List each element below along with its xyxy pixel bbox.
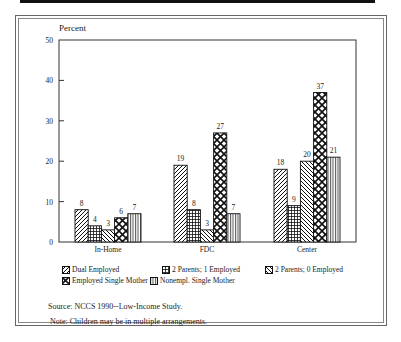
chart-bars: 843671983277189203721 <box>75 82 340 242</box>
bar <box>214 133 227 242</box>
bar-value-label: 9 <box>292 195 296 204</box>
y-tick-label: 20 <box>46 157 54 166</box>
bar <box>88 226 101 242</box>
y-tick-label: 30 <box>46 117 54 126</box>
y-axis-label: Percent <box>59 23 86 33</box>
bar-value-label: 4 <box>93 215 97 224</box>
bar <box>300 161 313 242</box>
bar <box>287 206 300 242</box>
x-category-label: In-Home <box>94 245 122 254</box>
bar <box>314 93 327 242</box>
footnote: Note: Children may be in multiple arrang… <box>50 317 207 326</box>
bar <box>274 169 287 242</box>
bar <box>187 210 200 242</box>
x-category-label: Center <box>297 245 317 254</box>
bar <box>115 218 128 242</box>
source-note: Source: NCCS 1990--Low-Income Study. <box>48 302 182 311</box>
bar-value-label: 18 <box>277 158 285 167</box>
bar-value-label: 21 <box>330 146 338 155</box>
y-tick-label: 50 <box>46 36 54 45</box>
pattern-vertical-icon <box>150 277 158 285</box>
y-tick-label: 40 <box>46 76 54 85</box>
bar <box>200 230 213 242</box>
bar <box>227 214 240 242</box>
bar-value-label: 3 <box>205 219 209 228</box>
x-category-label: FDC <box>200 245 215 254</box>
pattern-diagonal-back-icon <box>265 266 273 274</box>
bar-value-label: 7 <box>232 203 236 212</box>
bar <box>174 165 187 242</box>
bar-chart: Percent01020304050In-HomeFDCCenter 84367… <box>0 0 401 342</box>
bar <box>101 230 114 242</box>
bar-value-label: 37 <box>316 82 324 91</box>
legend-item-2-parents-0-employed: 2 Parents; 0 Employed <box>265 264 343 275</box>
pattern-diagonal-forward-icon <box>62 266 70 274</box>
legend-item-nonempl-single-mother: Nonempl. Single Mother <box>150 275 235 286</box>
y-tick-label: 0 <box>49 238 53 247</box>
bar-value-label: 27 <box>216 122 224 131</box>
bar-value-label: 6 <box>119 207 123 216</box>
pattern-diamond-crosshatch-icon <box>62 277 70 285</box>
bar-value-label: 8 <box>192 199 196 208</box>
bar <box>75 210 88 242</box>
bar-value-label: 7 <box>133 203 137 212</box>
bar-value-label: 20 <box>303 150 311 159</box>
bar-value-label: 19 <box>177 154 185 163</box>
y-tick-label: 10 <box>46 198 54 207</box>
bar-value-label: 8 <box>80 199 84 208</box>
bar <box>327 157 340 242</box>
legend-item-employed-single-mother: Employed Single Mother <box>62 275 148 286</box>
pattern-grid-icon <box>162 266 170 274</box>
legend-item-dual-employed: Dual Employed <box>62 264 119 275</box>
bar-value-label: 3 <box>106 219 110 228</box>
bar <box>128 214 141 242</box>
legend-item-2-parents-1-employed: 2 Parents; 1 Employed <box>162 264 240 275</box>
